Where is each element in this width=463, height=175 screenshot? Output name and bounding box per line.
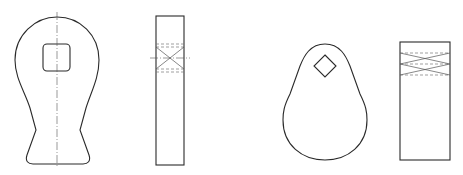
square-hole [43,44,70,71]
technical-drawing [0,0,463,175]
part-2-outline [283,44,367,160]
side-view-2-rect [400,42,450,160]
part-2-side-view [400,42,450,160]
part-1-side-view [150,16,190,165]
part-1-front-view [15,12,99,168]
side-view-1-rect [156,16,184,165]
diamond-hole [314,55,336,77]
part-2-front-view [283,44,367,160]
